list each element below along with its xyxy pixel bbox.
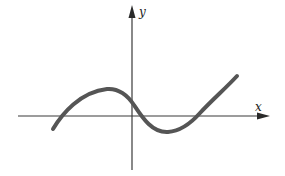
x-axis-label: x xyxy=(255,100,262,114)
y-axis-arrow-icon xyxy=(129,5,136,18)
graph-canvas: y x xyxy=(0,0,285,176)
y-axis-label: y xyxy=(138,5,146,19)
function-curve xyxy=(53,76,237,132)
function-graph-figure: y x xyxy=(0,0,285,176)
